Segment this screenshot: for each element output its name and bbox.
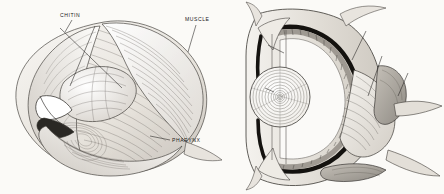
label-pharynx: PHARYNX xyxy=(172,137,200,144)
posterior-tip xyxy=(184,142,222,161)
anatomy-plate: CHITIN MUSCLE PHARYNX xyxy=(0,0,444,194)
figure-squid-beak: CHITIN MUSCLE PHARYNX xyxy=(0,0,228,194)
label-chitin: CHITIN xyxy=(60,12,80,19)
leader-muscle xyxy=(188,25,196,52)
leader-chitin-a xyxy=(65,20,72,32)
beak-illustration xyxy=(0,0,228,194)
eye-illustration xyxy=(228,0,444,194)
figure-squid-eye: IRIS LENS RETINA OPTIC GANGLION CARTILAG… xyxy=(228,0,444,194)
lens-concentric xyxy=(250,67,310,127)
label-muscle: MUSCLE xyxy=(185,16,210,23)
